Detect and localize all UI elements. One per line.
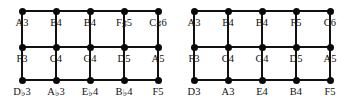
lattice-node (225, 8, 232, 15)
lattice-node (191, 44, 198, 51)
note-label: E4 (256, 86, 268, 97)
left-lattice: A3E4B4F♯5C♯6F3C4G4D5A5D♭3A♭3E♭4B♭4F5 (0, 0, 172, 97)
lattice-node (327, 44, 334, 51)
note-label: A♭3 (47, 86, 65, 97)
lattice-node (155, 77, 162, 84)
lattice-node (327, 77, 334, 84)
note-label: A3 (188, 17, 201, 28)
lattice-node (87, 8, 94, 15)
note-label: C4 (222, 53, 234, 64)
note-label: F5 (152, 86, 163, 97)
lattice-node (293, 8, 300, 15)
note-label: B♭4 (115, 86, 132, 97)
note-label: C6 (324, 17, 336, 28)
lattice-node (191, 8, 198, 15)
lattice-node (259, 8, 266, 15)
lattice-node (225, 77, 232, 84)
note-label: F♯5 (116, 17, 132, 30)
note-label: D3 (188, 86, 201, 97)
figure-canvas: A3E4B4F♯5C♯6F3C4G4D5A5D♭3A♭3E♭4B♭4F5 A3E… (0, 0, 344, 97)
lattice-node (53, 77, 60, 84)
accidental-glyph: ♭ (21, 88, 26, 97)
lattice-node (53, 8, 60, 15)
accidental-glyph: ♭ (88, 88, 93, 97)
note-label: F3 (16, 53, 27, 64)
note-label: G4 (84, 53, 97, 64)
lattice-node (225, 44, 232, 51)
note-label: E♭4 (82, 86, 99, 97)
note-label: E4 (50, 17, 62, 28)
accidental-glyph: ♯ (156, 19, 161, 29)
note-label: F5 (324, 86, 335, 97)
lattice-node (191, 77, 198, 84)
note-label: F5 (290, 17, 301, 28)
note-label: A5 (152, 53, 165, 64)
note-label: A3 (222, 86, 235, 97)
lattice-node (293, 44, 300, 51)
note-label: D♭3 (13, 86, 31, 97)
lattice-node (19, 44, 26, 51)
lattice-node (327, 8, 334, 15)
lattice-node (259, 44, 266, 51)
note-label: A3 (16, 17, 29, 28)
note-label: B4 (84, 17, 96, 28)
lattice-node (293, 77, 300, 84)
lattice-node (87, 44, 94, 51)
accidental-glyph: ♯ (122, 19, 127, 29)
note-label: D5 (118, 53, 131, 64)
lattice-node (121, 44, 128, 51)
note-label: E4 (222, 17, 234, 28)
lattice-node (155, 44, 162, 51)
note-label: G4 (256, 53, 269, 64)
accidental-glyph: ♭ (55, 88, 60, 97)
note-label: B4 (256, 17, 268, 28)
note-label: F3 (188, 53, 199, 64)
lattice-node (259, 77, 266, 84)
accidental-glyph: ♭ (122, 88, 127, 97)
lattice-node (19, 77, 26, 84)
lattice-node (19, 8, 26, 15)
lattice-node (87, 77, 94, 84)
note-label: C♯6 (149, 17, 166, 30)
lattice-node (53, 44, 60, 51)
lattice-node (121, 8, 128, 15)
lattice-node (155, 8, 162, 15)
note-label: B4 (290, 86, 302, 97)
lattice-node (121, 77, 128, 84)
right-lattice: A3E4B4F5C6F3C4G4D5A5D3A3E4B4F5 (172, 0, 344, 97)
note-label: A5 (324, 53, 337, 64)
note-label: C4 (50, 53, 62, 64)
note-label: D5 (290, 53, 303, 64)
